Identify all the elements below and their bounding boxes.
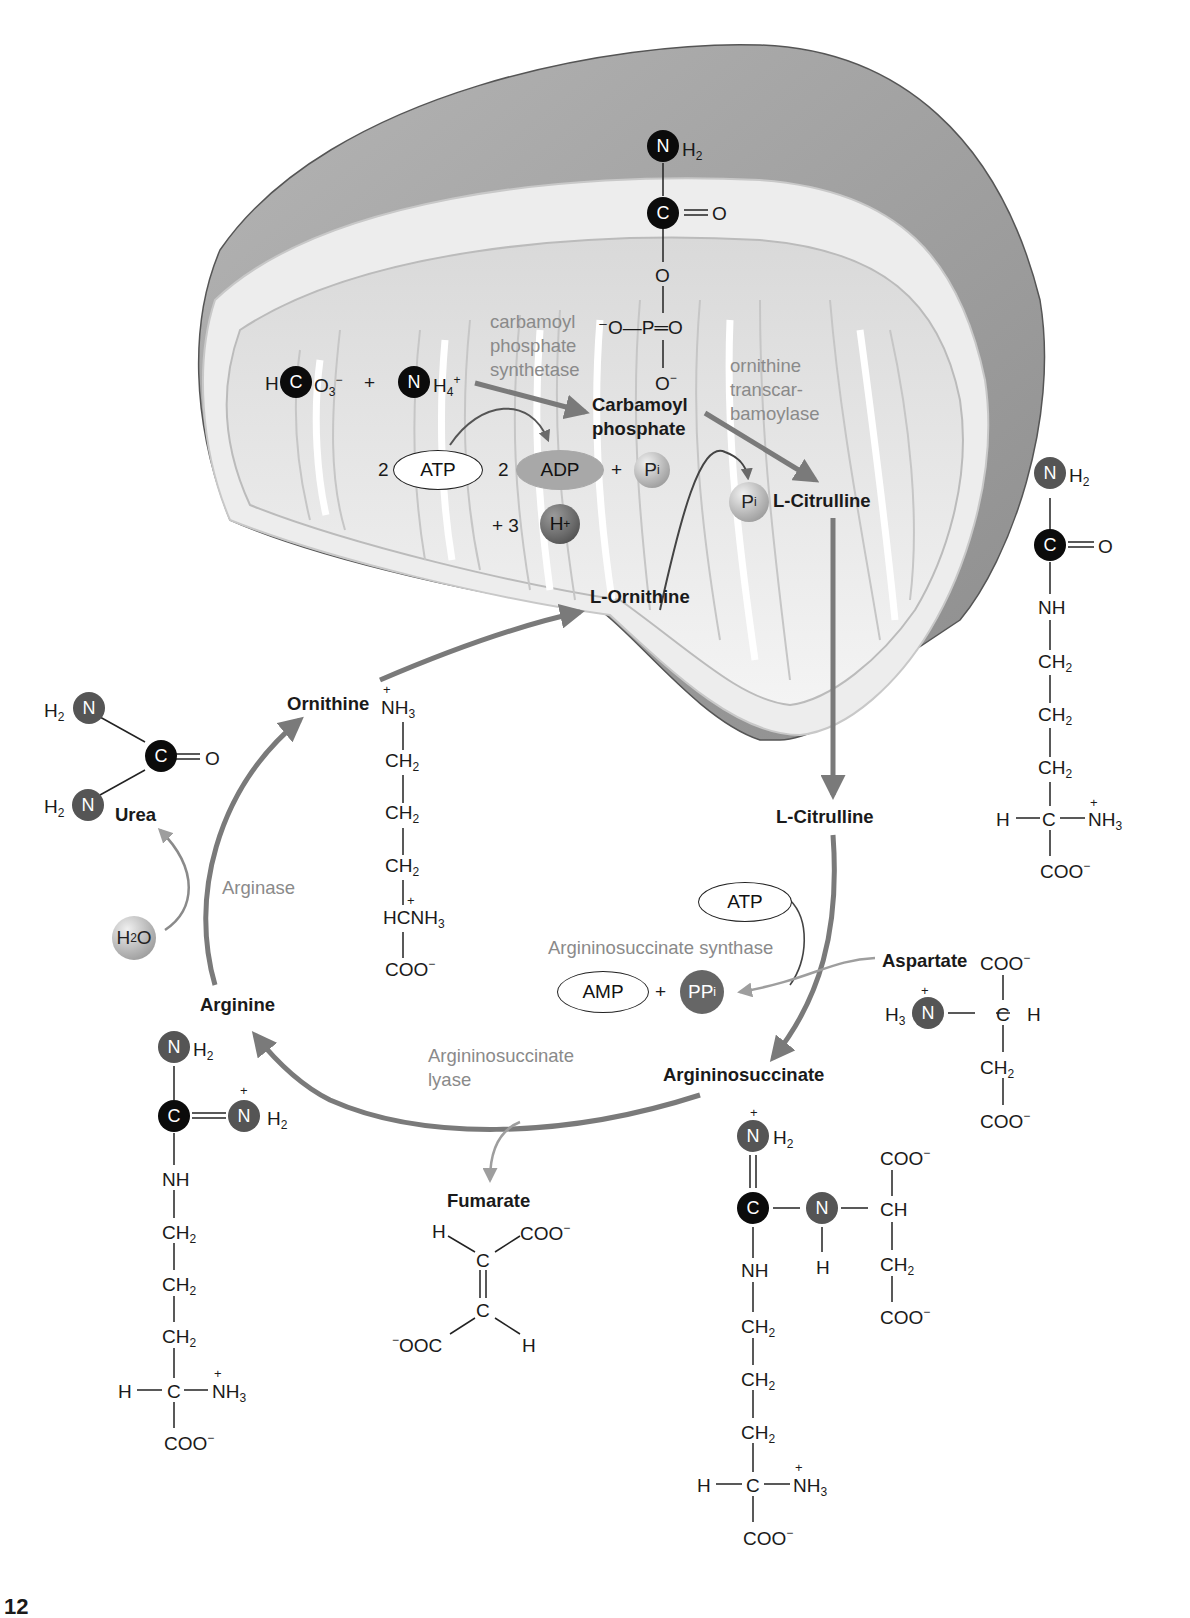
fumarate-label: Fumarate <box>447 1192 530 1211</box>
l-ornithine-mito-label: L-Ornithine <box>590 588 690 607</box>
argininosuccinate-label: Argininosuccinate <box>663 1066 824 1085</box>
phosphate-ball-icon: Pi <box>634 452 670 488</box>
carbon-atom-icon: C <box>1034 529 1066 561</box>
atp-molecule: ATP <box>698 882 792 922</box>
nitrogen-atom-icon: N <box>228 1100 260 1132</box>
adp-molecule: ADP <box>516 450 604 490</box>
phosphate-o-minus: O− <box>655 372 677 393</box>
carbon-atom-icon: C <box>280 366 312 398</box>
plus-sign: + <box>611 460 622 479</box>
h2-label: H2 <box>682 140 702 162</box>
nitrogen-atom-icon: N <box>1034 457 1066 489</box>
nitrogen-atom-icon: N <box>737 1120 769 1152</box>
page-number-fragment: 12 <box>4 1596 28 1618</box>
urea-label: Urea <box>115 806 156 825</box>
enzyme-argininosuccinate-lyase: Argininosuccinate lyase <box>428 1044 574 1092</box>
carbon-atom-icon: C <box>647 197 679 229</box>
l-citrulline-mito-label: L-Citrulline <box>773 492 871 511</box>
enzyme-argininosuccinate-synthase: Argininosuccinate synthase <box>548 936 773 960</box>
enzyme-carbamoyl-phosphate-synthetase: carbamoyl phosphate synthetase <box>490 310 579 382</box>
carbonyl-oxygen: O <box>712 204 727 223</box>
phosphate-ball-icon: Pi <box>729 482 769 522</box>
enzyme-arginase: Arginase <box>222 876 295 900</box>
aspartate-label: Aspartate <box>882 952 967 971</box>
nitrogen-atom-icon: N <box>912 997 944 1029</box>
atp-molecule: ATP <box>393 450 483 490</box>
nitrogen-atom-icon: N <box>806 1192 838 1224</box>
adp-coefficient: 2 <box>498 460 509 479</box>
l-citrulline-cytosol-label: L-Citrulline <box>776 808 874 827</box>
plus-3: + 3 <box>492 516 519 535</box>
arginine-label: Arginine <box>200 996 275 1015</box>
pyrophosphate-ball-icon: PPi <box>680 970 724 1014</box>
nitrogen-atom-icon: N <box>72 789 104 821</box>
water-ball-icon: H2O <box>112 916 156 960</box>
nitrogen-atom-icon: N <box>398 366 430 398</box>
phosphate-row: ⁻O—P═O <box>598 318 683 337</box>
nitrogen-atom-icon: N <box>73 692 105 724</box>
proton-ball-icon: H+ <box>540 504 580 544</box>
atp-coefficient: 2 <box>378 460 389 479</box>
carbon-atom-icon: C <box>158 1100 190 1132</box>
enzyme-ornithine-transcarbamoylase: ornithine transcar- bamoylase <box>730 354 819 426</box>
amp-molecule: AMP <box>557 971 649 1013</box>
nitrogen-atom-icon: N <box>647 130 679 162</box>
plus-sign: + <box>364 373 375 392</box>
ornithine-label: Ornithine <box>287 695 369 714</box>
carbon-atom-icon: C <box>145 740 177 772</box>
carbon-atom-icon: C <box>737 1192 769 1224</box>
carbamoyl-phosphate-label: Carbamoyl phosphate <box>592 393 688 441</box>
plus-sign: + <box>655 982 666 1001</box>
bridging-oxygen: O <box>655 266 670 285</box>
nitrogen-atom-icon: N <box>158 1031 190 1063</box>
